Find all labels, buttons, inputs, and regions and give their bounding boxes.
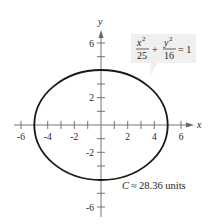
x-tick-label: 6 <box>179 132 184 142</box>
y-tick-label: 6 <box>89 39 94 49</box>
y-tick-label: -2 <box>86 148 94 158</box>
circumference-label: C ≈ 28.36 units <box>122 180 186 191</box>
svg-text:28.36 units: 28.36 units <box>139 180 186 191</box>
x-tick-label: -4 <box>44 132 52 142</box>
y-axis-arrow-icon <box>99 30 104 38</box>
svg-text:= 1: = 1 <box>178 44 191 55</box>
x-tick-label: 4 <box>152 132 157 142</box>
x-axis-arrow-icon <box>186 123 194 128</box>
svg-text:25: 25 <box>137 50 147 61</box>
y-tick-label: 2 <box>89 93 94 103</box>
x-tick-label: -2 <box>70 132 78 142</box>
svg-text:2: 2 <box>142 35 146 43</box>
svg-text:16: 16 <box>164 50 174 61</box>
x-axis-label: x <box>196 119 202 130</box>
svg-text:≈: ≈ <box>131 180 137 191</box>
svg-text:2: 2 <box>169 35 173 43</box>
x-tick-label: 2 <box>125 132 130 142</box>
svg-text:+: + <box>152 44 158 55</box>
svg-text:C: C <box>122 180 130 191</box>
x-tick-label: -6 <box>17 132 25 142</box>
y-axis-label: y <box>97 16 103 27</box>
y-tick-label: -6 <box>86 203 94 213</box>
ellipse-diagram: -6 -4 -2 2 4 6 6 2 -2 -6 x y x 2 25 + y … <box>0 0 214 224</box>
